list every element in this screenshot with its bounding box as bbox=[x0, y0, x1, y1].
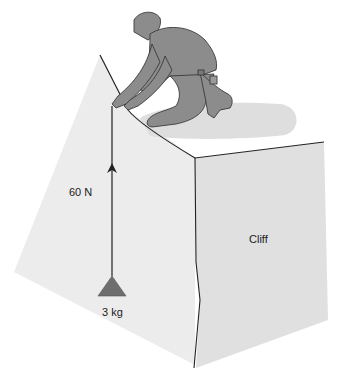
force-label: 60 N bbox=[69, 186, 92, 198]
cliff-right-face bbox=[195, 142, 328, 368]
cliff-label: Cliff bbox=[249, 233, 268, 245]
cliff-diagram bbox=[0, 0, 344, 385]
mass-label: 3 kg bbox=[102, 306, 123, 318]
